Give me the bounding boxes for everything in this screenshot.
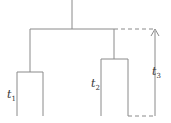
label-t3: t3 <box>152 65 161 80</box>
label-t1: t1 <box>7 88 16 103</box>
label-t2: t2 <box>91 77 100 92</box>
tree-diagram: t1 t2 t3 <box>0 0 171 123</box>
